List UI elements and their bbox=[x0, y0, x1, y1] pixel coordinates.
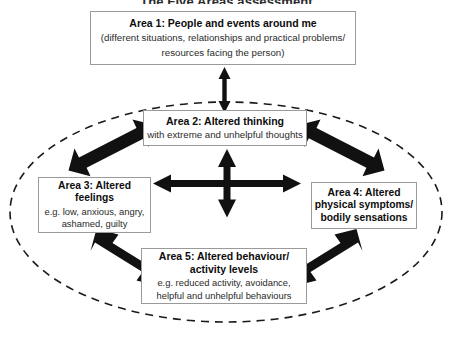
area-2-subtitle-line-1: with extreme and unhelpful thoughts bbox=[147, 129, 303, 142]
area-1-subtitle-line-1: (different situations, relationships and… bbox=[101, 32, 345, 45]
area-2-title: Area 2: Altered thinking bbox=[166, 115, 284, 128]
five-areas-diagram: The Five Areas assessment bbox=[0, 0, 453, 337]
arrow-area1-area2 bbox=[219, 67, 231, 113]
page-title: The Five Areas assessment bbox=[0, 0, 453, 4]
area-5-subtitle-line-2: helpful and unhelpful behaviours bbox=[157, 290, 292, 302]
area-3-title-line-1: Area 3: Altered bbox=[58, 180, 131, 192]
area-1-box[interactable]: Area 1: People and events around me (dif… bbox=[90, 11, 356, 65]
area-4-box[interactable]: Area 4: Altered physical symptoms/ bodil… bbox=[311, 182, 417, 229]
center-cross-arrows bbox=[153, 149, 301, 218]
area-4-title-line-1: Area 4: Altered bbox=[328, 187, 401, 200]
area-3-subtitle-line-1: e.g. low, anxious, angry, bbox=[45, 206, 145, 218]
area-4-title-line-2: physical symptoms/ bbox=[315, 199, 413, 212]
area-4-title-line-3: bodily sensations bbox=[321, 212, 408, 225]
area-2-box[interactable]: Area 2: Altered thinking with extreme an… bbox=[143, 110, 307, 146]
area-5-title-line-2: activity levels bbox=[190, 263, 258, 276]
area-3-box[interactable]: Area 3: Altered feelings e.g. low, anxio… bbox=[38, 177, 151, 233]
arrow-area2-area4 bbox=[299, 120, 385, 177]
area-3-title-line-2: feelings bbox=[75, 192, 114, 204]
area-3-subtitle-line-2: ashamed, guilty bbox=[62, 218, 128, 230]
area-5-box[interactable]: Area 5: Altered behaviour/ activity leve… bbox=[141, 248, 307, 304]
arrow-area2-area3 bbox=[69, 120, 155, 177]
area-1-subtitle-line-2: resources facing the person) bbox=[162, 47, 285, 60]
area-1-title: Area 1: People and events around me bbox=[129, 17, 316, 30]
area-5-title-line-1: Area 5: Altered behaviour/ bbox=[159, 250, 289, 263]
area-5-subtitle-line-1: e.g. reduced activity, avoidance, bbox=[157, 277, 290, 289]
